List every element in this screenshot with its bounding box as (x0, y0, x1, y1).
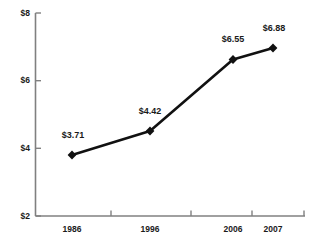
y-axis-label-6: $6 (8, 76, 30, 85)
y-axis-label-8: $8 (8, 9, 30, 18)
x-axis-label-1996: 1996 (130, 225, 170, 234)
line-chart: $8 $6 $4 $2 1986 1996 2006 2007 $3.71 $4… (0, 0, 314, 242)
x-axis-label-2006: 2006 (213, 225, 253, 234)
chart-plot-area (0, 0, 314, 242)
data-label-1986: $3.71 (52, 131, 94, 140)
data-label-2007: $6.88 (253, 24, 295, 33)
data-label-1996: $4.42 (129, 107, 171, 116)
y-axis-label-4: $4 (8, 144, 30, 153)
x-axis-label-1986: 1986 (52, 225, 92, 234)
chart-background (0, 0, 314, 242)
x-axis-label-2007: 2007 (253, 225, 293, 234)
y-axis-label-2: $2 (8, 212, 30, 221)
data-label-2006: $6.55 (212, 35, 254, 44)
